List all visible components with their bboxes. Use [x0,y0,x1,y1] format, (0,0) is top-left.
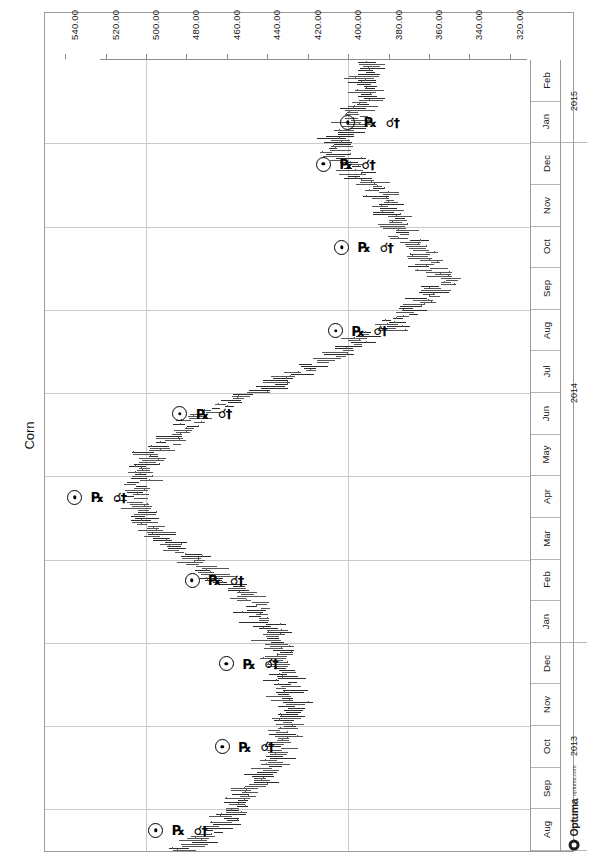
ohlc-bar-tick [396,215,397,217]
plot-area[interactable]: ℞☌†℞☌†℞☌†℞☌†℞☌†℞☌†℞☌†℞☌†℞☌†℞☌† [45,60,530,851]
ohlc-bar [267,638,279,639]
ohlc-bar [359,100,383,101]
ohlc-bar [160,544,181,545]
ohlc-bar-tick [287,737,288,739]
ohlc-bar-tick [281,629,282,631]
date-axis-month-label: Apr [540,489,551,504]
ohlc-bar [380,208,397,209]
date-axis-month-label: Jun [540,406,551,421]
ohlc-bar-tick [244,799,245,801]
aspect-marker[interactable]: ℞☌† [316,153,375,175]
aspect-marker[interactable]: ℞☌† [334,236,393,258]
aspect-marker[interactable]: ℞☌† [67,486,126,508]
value-axis-tick [146,54,147,59]
conjunction-icon: ☌† [361,158,374,171]
ohlc-bar [233,398,244,399]
ohlc-bar-tick [142,469,143,471]
ohlc-bar [131,478,147,479]
ohlc-bar-tick [448,275,449,277]
ohlc-bar-tick [366,87,367,89]
ohlc-bar [282,672,296,673]
aspect-marker[interactable]: ℞☌† [185,569,244,591]
ohlc-bar [139,462,155,463]
ohlc-bar-tick [433,293,434,295]
date-axis-month-cell: Nov [531,684,561,726]
date-axis-month-label: Feb [541,572,552,588]
ohlc-bar [357,84,371,85]
optuma-circle-icon [569,840,580,851]
ohlc-bar-tick [151,445,152,447]
ohlc-bar-tick [308,701,309,703]
ohlc-bar-tick [246,789,247,791]
ohlc-bar [348,176,360,177]
ohlc-bar [413,250,428,251]
ohlc-bar-tick [186,427,187,429]
ohlc-bar [276,692,304,693]
ohlc-bar [358,70,373,71]
date-axis-month-cell: Oct [531,227,561,269]
retrograde-icon: ℞ [364,115,377,129]
ohlc-bar-tick [429,259,430,261]
ohlc-bar-tick [289,699,290,701]
date-axis-month-label: Jan [540,114,551,129]
ohlc-bar [317,362,329,363]
ohlc-bar-tick [144,505,145,507]
ohlc-bar [363,66,380,67]
ohlc-bar-tick [156,529,157,531]
date-axis-month-cell: Sep [531,768,561,810]
date-axis-months: FebJanDecNovOctSepAugJulJunMayAprMarFebJ… [530,60,560,851]
ohlc-bar [360,182,390,183]
date-axis-month-cell: Oct [531,726,561,768]
date-axis-month-label: Feb [541,72,552,88]
ohlc-bar [334,144,351,145]
aspect-marker[interactable]: ℞☌† [148,819,207,841]
ohlc-bar-tick [141,523,142,525]
ohlc-bar [265,644,288,645]
date-axis-month-label: Nov [541,696,552,713]
value-axis: 540.00520.00500.00480.00460.00440.00420.… [100,13,527,60]
ohlc-bar-tick [381,205,382,207]
grid-line-horizontal [45,476,530,477]
ohlc-bar [276,724,304,725]
value-axis-label: 480.00 [190,40,220,51]
ohlc-bar-tick [370,93,371,95]
date-axis-month-label: Jul [541,366,552,378]
aspect-marker[interactable]: ℞☌† [340,111,399,133]
ohlc-bar-tick [263,777,264,779]
ohlc-bar-tick [369,189,370,191]
date-axis-month-cell: Jan [531,102,561,144]
conjunction-icon: ☌† [374,324,387,337]
ohlc-bar-tick [150,455,151,457]
ohlc-bar-tick [152,533,153,535]
ohlc-bar-tick [394,321,395,323]
grid-line-horizontal [45,809,530,810]
ohlc-bar [373,188,384,189]
ohlc-bar-tick [245,791,246,793]
date-axis-month-cell: Sep [531,268,561,310]
ohlc-bar [364,98,384,99]
aspect-marker[interactable]: ℞☌† [328,320,387,342]
value-axis-tick [389,54,390,59]
aspect-marker[interactable]: ℞☌† [172,403,231,425]
ohlc-bar [360,68,385,69]
ohlc-bar [249,616,260,617]
date-axis-month-cell: Nov [531,185,561,227]
grid-line-horizontal [45,393,530,394]
aspect-marker[interactable]: ℞☌† [215,736,274,758]
optuma-brand-label: Optuma [568,799,580,837]
aspect-marker[interactable]: ℞☌† [219,653,278,675]
grid-line-horizontal [45,227,530,228]
ohlc-bar [129,466,146,467]
ohlc-bar-tick [298,371,299,373]
ohlc-bar [335,348,353,349]
ohlc-bar-tick [144,489,145,491]
ohlc-bar [135,518,159,519]
ohlc-bar [149,450,175,451]
date-axis-month-label: Sep [541,780,552,797]
ohlc-bar [420,302,436,303]
ohlc-bar-tick [179,439,180,441]
ohlc-bar [268,762,284,763]
ohlc-bar-tick [279,719,280,721]
date-axis-month-cell: Feb [531,560,561,602]
chart-title: Corn [18,400,40,470]
